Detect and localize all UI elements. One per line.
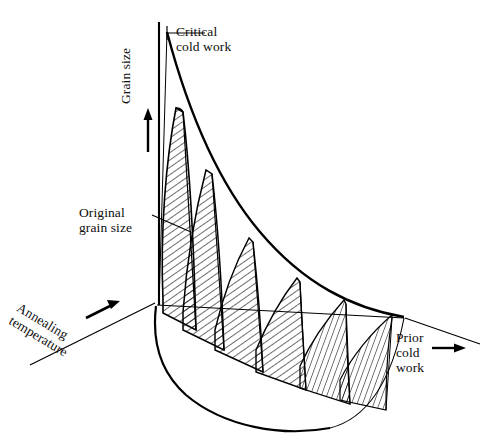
up-arrow-icon bbox=[144, 108, 153, 152]
prior-cold-work-line2: cold bbox=[396, 345, 420, 360]
axis-label-prior-cold-work: Priorcoldwork bbox=[396, 330, 424, 375]
prior-cold-work-line3: work bbox=[396, 360, 424, 375]
original-grain-size-line2: grain size bbox=[79, 220, 132, 235]
cross-section-slices bbox=[162, 108, 392, 410]
critical-cold-work-line1: Critical bbox=[176, 24, 217, 39]
axis-label-grain-size: Grain size bbox=[118, 48, 133, 104]
diagonal-arrow-icon bbox=[86, 300, 120, 318]
right-arrow-icon bbox=[432, 344, 466, 353]
annotation-critical-cold-work: Criticalcold work bbox=[176, 24, 231, 54]
annotation-original-grain-size: Originalgrain size bbox=[79, 205, 132, 235]
slice-4 bbox=[256, 278, 306, 390]
prior-cold-work-line1: Prior bbox=[396, 330, 424, 345]
original-grain-size-line1: Original bbox=[79, 205, 125, 220]
critical-cold-work-line2: cold work bbox=[176, 39, 231, 54]
